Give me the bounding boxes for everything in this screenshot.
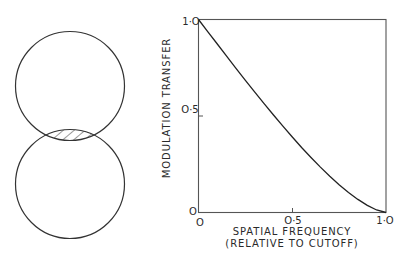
figure: 1·O O·5 O O O·5 1·O SPATIAL FREQUENCY (R… bbox=[0, 0, 405, 260]
x-axis-label: SPATIAL FREQUENCY bbox=[233, 226, 352, 237]
y-axis-label: MODULATION TRANSFER bbox=[161, 38, 172, 178]
x-tick-label-0-5: O·5 bbox=[284, 215, 301, 226]
y-tick-label-0-5: O·5 bbox=[181, 104, 198, 115]
y-tick-label-0: O bbox=[189, 206, 197, 217]
y-tick-label-1: 1·O bbox=[182, 16, 200, 27]
x-axis-label-line2: (RELATIVE TO CUTOFF) bbox=[225, 238, 358, 249]
mtf-curve bbox=[199, 20, 387, 213]
pupil-overlap-diagram bbox=[16, 32, 125, 239]
bottom-pupil-circle bbox=[16, 130, 125, 239]
mtf-chart: 1·O O·5 O O O·5 1·O SPATIAL FREQUENCY (R… bbox=[161, 16, 394, 249]
plot-frame bbox=[199, 20, 387, 213]
x-tick-label-1: 1·O bbox=[376, 215, 394, 226]
top-pupil-circle bbox=[16, 32, 125, 141]
x-tick-label-0: O bbox=[196, 217, 204, 228]
